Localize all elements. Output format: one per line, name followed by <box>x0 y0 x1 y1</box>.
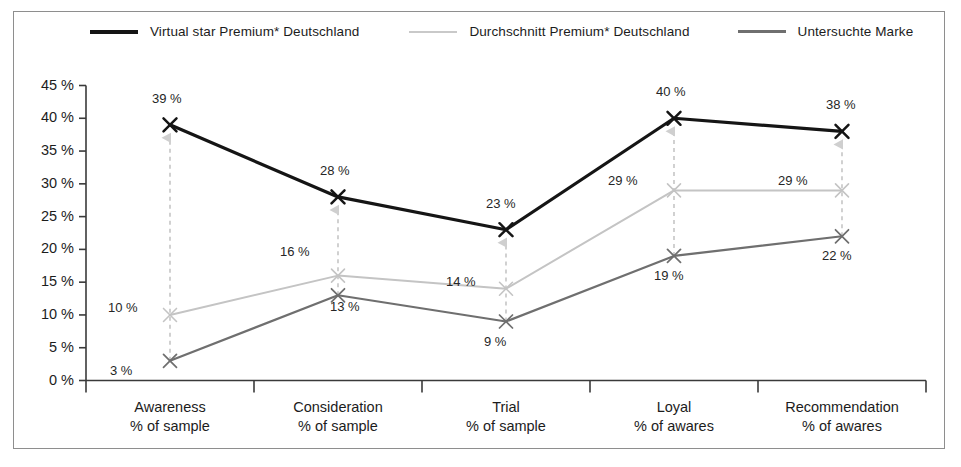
x-axis-category-label: Awareness% of sample <box>86 398 254 437</box>
y-axis-tick-label: 0 % <box>18 372 74 388</box>
data-point-value-label: 19 % <box>654 268 684 283</box>
y-axis-tick-label: 5 % <box>18 339 74 355</box>
legend-line-swatch-icon <box>409 31 457 33</box>
x-axis-category-name: Awareness <box>86 398 254 418</box>
data-point-value-label: 22 % <box>822 248 852 263</box>
chart-screenshot: Virtual star Premium* Deutschland Durchs… <box>0 0 961 467</box>
data-point-value-label: 16 % <box>280 244 310 259</box>
x-axis-category-name: Trial <box>422 398 590 418</box>
legend-item-durchschnitt[interactable]: Durchschnitt Premium* Deutschland <box>409 24 689 39</box>
data-point-value-label: 13 % <box>330 299 360 314</box>
x-axis-category-basis: % of sample <box>254 417 422 437</box>
data-point-value-label: 10 % <box>108 300 138 315</box>
legend-line-swatch-icon <box>738 30 786 33</box>
legend-item-virtual-star[interactable]: Virtual star Premium* Deutschland <box>90 24 359 39</box>
data-point-value-label: 28 % <box>320 163 350 178</box>
x-axis-category-name: Consideration <box>254 398 422 418</box>
x-axis-category-basis: % of awares <box>590 417 758 437</box>
data-point-value-label: 23 % <box>486 196 516 211</box>
chart-legend: Virtual star Premium* Deutschland Durchs… <box>90 24 913 39</box>
legend-label: Virtual star Premium* Deutschland <box>150 24 359 39</box>
x-axis-category-basis: % of sample <box>86 417 254 437</box>
x-axis-category-basis: % of sample <box>422 417 590 437</box>
data-point-value-label: 3 % <box>110 363 132 378</box>
x-axis-category-name: Loyal <box>590 398 758 418</box>
x-axis-category-label: Recommendation% of awares <box>758 398 926 437</box>
legend-label: Untersuchte Marke <box>798 24 914 39</box>
y-axis-tick-label: 15 % <box>18 273 74 289</box>
y-axis-tick-label: 45 % <box>18 77 74 93</box>
chart-frame <box>13 11 945 449</box>
legend-line-swatch-icon <box>90 30 138 34</box>
y-axis-tick-label: 20 % <box>18 240 74 256</box>
x-axis-category-label: Trial% of sample <box>422 398 590 437</box>
y-axis-tick-label: 25 % <box>18 208 74 224</box>
data-point-value-label: 14 % <box>446 274 476 289</box>
data-point-value-label: 9 % <box>484 334 506 349</box>
data-point-value-label: 39 % <box>152 91 182 106</box>
data-point-value-label: 40 % <box>656 84 686 99</box>
y-axis-tick-label: 30 % <box>18 175 74 191</box>
data-point-value-label: 29 % <box>778 173 808 188</box>
x-axis-category-name: Recommendation <box>758 398 926 418</box>
x-axis-category-label: Loyal% of awares <box>590 398 758 437</box>
data-point-value-label: 38 % <box>826 97 856 112</box>
y-axis-tick-label: 40 % <box>18 109 74 125</box>
x-axis-category-basis: % of awares <box>758 417 926 437</box>
x-axis-category-label: Consideration% of sample <box>254 398 422 437</box>
y-axis-tick-label: 10 % <box>18 306 74 322</box>
legend-item-untersuchte-marke[interactable]: Untersuchte Marke <box>738 24 914 39</box>
data-point-value-label: 29 % <box>608 173 638 188</box>
y-axis-tick-label: 35 % <box>18 142 74 158</box>
legend-label: Durchschnitt Premium* Deutschland <box>469 24 689 39</box>
